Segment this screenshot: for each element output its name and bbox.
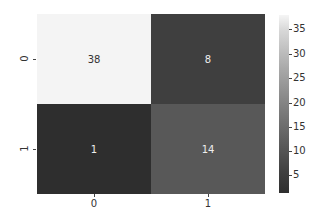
colorbar-tick-30: 30 (293, 48, 306, 59)
colorbar-tick-5: 5 (293, 169, 299, 180)
cell-value: 14 (202, 144, 215, 155)
colorbar-tick-35: 35 (293, 23, 306, 34)
colorbar-tick-mark-30 (289, 54, 292, 55)
colorbar-tick-mark-35 (289, 29, 292, 30)
cell-value: 8 (205, 54, 211, 65)
colorbar-tick-20: 20 (293, 97, 306, 108)
x-tick-label-1: 1 (202, 198, 214, 209)
colorbar-tick-mark-15 (289, 127, 292, 128)
y-tick-label-0: 0 (19, 53, 30, 65)
heatmap-cell-r0-c1: 8 (151, 14, 265, 104)
heatmap-cell-r1-c1: 14 (151, 104, 265, 194)
colorbar-tick-25: 25 (293, 72, 306, 83)
colorbar-tick-10: 10 (293, 145, 306, 156)
y-tick-mark-0 (33, 59, 36, 60)
cell-value: 1 (91, 144, 97, 155)
colorbar-tick-mark-25 (289, 78, 292, 79)
colorbar-tick-mark-5 (289, 175, 292, 176)
colorbar-tick-mark-10 (289, 151, 292, 152)
colorbar-tick-mark-20 (289, 103, 292, 104)
heatmap-cell-r0-c0: 38 (37, 14, 151, 104)
heatmap-cell-r1-c0: 1 (37, 104, 151, 194)
heatmap-plot-area: 38 8 1 14 (37, 14, 265, 194)
cell-value: 38 (88, 54, 101, 65)
x-tick-mark-0 (94, 194, 95, 197)
x-tick-mark-1 (208, 194, 209, 197)
colorbar-tick-15: 15 (293, 121, 306, 132)
x-tick-label-0: 0 (88, 198, 100, 209)
colorbar (279, 15, 289, 193)
y-tick-mark-1 (33, 149, 36, 150)
y-tick-label-1: 1 (19, 143, 30, 155)
